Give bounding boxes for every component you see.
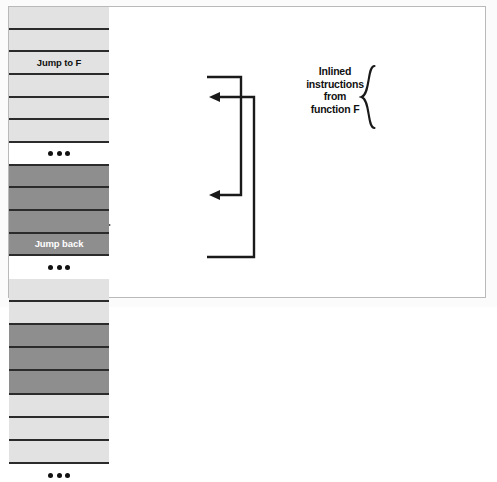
ellipsis-icon xyxy=(48,473,70,478)
instruction-row-label: Jump to F xyxy=(37,57,82,68)
instruction-row xyxy=(9,188,109,211)
instruction-row xyxy=(9,143,109,166)
instruction-row-label: Jump back xyxy=(35,238,84,249)
jump-back-arrow xyxy=(207,92,254,257)
instruction-row xyxy=(9,348,109,371)
instruction-row xyxy=(9,7,109,30)
instruction-row xyxy=(9,30,109,53)
instruction-row xyxy=(9,395,109,418)
instruction-row xyxy=(9,371,109,394)
non-inlined-instruction-column: Jump to FJump back xyxy=(9,7,109,279)
instruction-row xyxy=(9,120,109,143)
instruction-row xyxy=(9,302,109,325)
jump-to-f-arrow xyxy=(207,77,241,200)
instruction-row: Jump back xyxy=(9,234,109,257)
figure-frame: Executing instructions in order Function… xyxy=(8,6,486,298)
curly-brace-left-icon xyxy=(359,64,377,130)
instruction-row xyxy=(9,464,109,482)
instruction-row xyxy=(9,211,109,234)
instruction-row: Jump to F xyxy=(9,52,109,75)
instruction-row xyxy=(9,441,109,464)
instruction-row xyxy=(9,75,109,98)
instruction-row xyxy=(9,166,109,189)
instruction-row xyxy=(9,418,109,441)
ellipsis-icon xyxy=(48,151,70,156)
instruction-row xyxy=(9,279,109,302)
ellipsis-icon xyxy=(48,265,70,270)
instruction-row xyxy=(9,98,109,121)
instruction-row xyxy=(9,256,109,279)
inlined-instruction-column xyxy=(9,279,109,482)
instruction-row xyxy=(9,325,109,348)
jump-arrows-group xyxy=(207,67,262,267)
